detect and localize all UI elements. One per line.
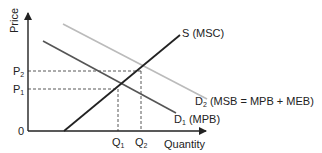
guide-lines: [28, 71, 141, 131]
y-axis-label: Price: [8, 8, 20, 33]
q2-label: Q2: [135, 136, 148, 149]
d2-label: D2 (MSB = MPB + MEB): [195, 95, 314, 108]
p1-label: P1: [13, 83, 24, 96]
p2-label: P2: [13, 65, 24, 78]
d1-curve: [43, 41, 176, 113]
supply-label: S (MSC): [182, 27, 224, 39]
d1-label: D1 (MPB): [174, 113, 220, 126]
x-axis-label: Quantity: [164, 138, 205, 150]
q1-label: Q1: [112, 136, 125, 149]
origin-label: 0: [18, 125, 24, 137]
externality-diagram: Price Quantity 0 P2 P1 Q1 Q2 S (MSC) D2 …: [0, 0, 322, 153]
supply-curve: [64, 35, 180, 131]
